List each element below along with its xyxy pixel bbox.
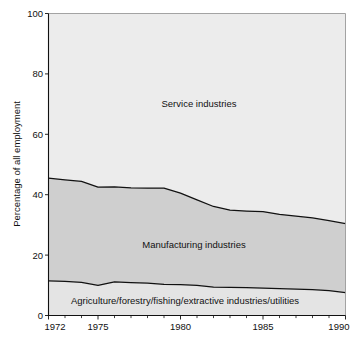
manufacturing-industries-label: Manufacturing industries [142,239,246,250]
y-tick-label: 20 [32,250,43,261]
primary-industries-label: Agriculture/forestry/fishing/extractive … [71,295,299,306]
x-axis-tick-labels: 19721975198019851990 [45,321,350,332]
chart-container: 020406080100 19721975198019851990 Percen… [0,0,363,349]
y-axis-title: Percentage of all employment [11,101,22,227]
employment-area-chart: 020406080100 19721975198019851990 Percen… [0,0,363,349]
x-tick-label: 1985 [252,321,273,332]
stacked-area-bands [49,14,346,316]
y-tick-label: 60 [32,129,43,140]
y-tick-label: 100 [27,8,43,19]
x-tick-label: 1972 [45,321,66,332]
x-tick-label: 1980 [170,321,191,332]
y-tick-label: 80 [32,68,43,79]
x-tick-label: 1990 [328,321,349,332]
y-tick-label: 40 [32,189,43,200]
y-axis-tick-labels: 020406080100 [27,8,43,321]
service-industries-label: Service industries [162,98,237,109]
x-tick-label: 1975 [87,321,108,332]
y-tick-label: 0 [38,310,43,321]
